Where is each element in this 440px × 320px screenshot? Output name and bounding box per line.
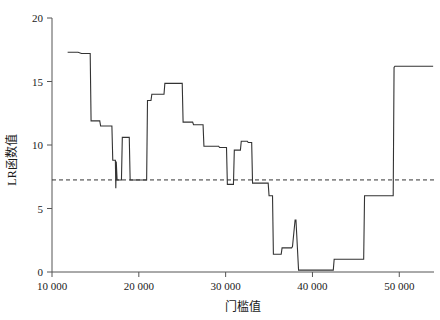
y-axis-group: 05101520 LR函数值 — [4, 12, 52, 278]
x-axis-group: 10 00020 00030 00040 00050 000 门槛值 — [37, 272, 434, 314]
x-tick-label-40000: 40 000 — [297, 280, 328, 292]
x-tick-labels: 10 00020 00030 00040 00050 000 — [37, 280, 415, 292]
x-axis-title: 门槛值 — [225, 299, 261, 314]
line-chart-canvas: 05101520 LR函数值 10 00020 00030 00040 0005… — [0, 0, 440, 320]
y-tick-label-0: 0 — [38, 266, 44, 278]
y-tick-label-15: 15 — [32, 76, 44, 88]
x-tick-label-10000: 10 000 — [37, 280, 68, 292]
y-tick-label-5: 5 — [38, 203, 44, 215]
lr-statistic-line — [68, 52, 434, 270]
y-axis-title: LR函数值 — [4, 134, 19, 185]
chart-figure: 05101520 LR函数值 10 00020 00030 00040 0005… — [0, 0, 440, 320]
x-tick-label-30000: 30 000 — [211, 280, 242, 292]
y-tick-label-10: 10 — [32, 139, 44, 151]
x-tick-label-50000: 50 000 — [384, 280, 415, 292]
y-tick-marks — [47, 18, 52, 272]
x-tick-label-20000: 20 000 — [124, 280, 155, 292]
x-tick-marks — [52, 272, 399, 277]
y-tick-labels: 05101520 — [32, 12, 44, 278]
y-tick-label-20: 20 — [32, 12, 44, 24]
